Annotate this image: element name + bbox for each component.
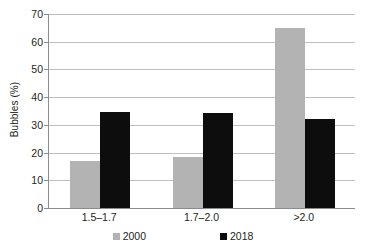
y-tick-mark-40	[44, 97, 49, 98]
y-tick-mark-70	[44, 14, 49, 15]
y-tick-label-60: 60	[3, 36, 43, 47]
gridline-0	[49, 208, 355, 209]
bar-2018-1.7–2.0[interactable]	[203, 113, 233, 208]
chart-legend: 2000 2018	[0, 231, 366, 242]
y-tick-mark-60	[44, 42, 49, 43]
bar-2000-1.7–2.0[interactable]	[173, 157, 203, 208]
category-label-1: 1.5–1.7	[48, 212, 150, 223]
bar-2000-1.5–1.7[interactable]	[70, 161, 100, 208]
bar-2000->2.0[interactable]	[275, 28, 305, 208]
gridline-40	[49, 97, 355, 98]
bar-2018->2.0[interactable]	[305, 119, 335, 208]
y-tick-mark-10	[44, 180, 49, 181]
legend-item-2000[interactable]: 2000	[113, 231, 146, 242]
plot-inner: 010203040506070	[49, 14, 355, 208]
y-tick-label-70: 70	[3, 9, 43, 20]
y-tick-label-10: 10	[3, 175, 43, 186]
legend-item-2018[interactable]: 2018	[220, 231, 253, 242]
category-label-3: >2.0	[253, 212, 355, 223]
y-tick-label-50: 50	[3, 64, 43, 75]
gridline-60	[49, 42, 355, 43]
plot-area: 010203040506070	[48, 14, 355, 208]
y-tick-mark-50	[44, 69, 49, 70]
y-tick-mark-0	[44, 208, 49, 209]
bar-chart: Bubbles (%) 010203040506070 1.5–1.71.7–2…	[0, 0, 366, 252]
legend-swatch-2000-icon	[113, 233, 120, 240]
legend-label-2000: 2000	[123, 231, 146, 242]
y-tick-label-30: 30	[3, 120, 43, 131]
legend-label-2018: 2018	[230, 231, 253, 242]
bar-2018-1.5–1.7[interactable]	[100, 112, 130, 208]
y-tick-label-40: 40	[3, 92, 43, 103]
gridline-50	[49, 69, 355, 70]
legend-swatch-2018-icon	[220, 233, 227, 240]
y-tick-mark-20	[44, 153, 49, 154]
y-tick-mark-30	[44, 125, 49, 126]
gridline-70	[49, 14, 355, 15]
y-tick-label-0: 0	[3, 203, 43, 214]
category-label-2: 1.7–2.0	[150, 212, 252, 223]
y-tick-label-20: 20	[3, 147, 43, 158]
